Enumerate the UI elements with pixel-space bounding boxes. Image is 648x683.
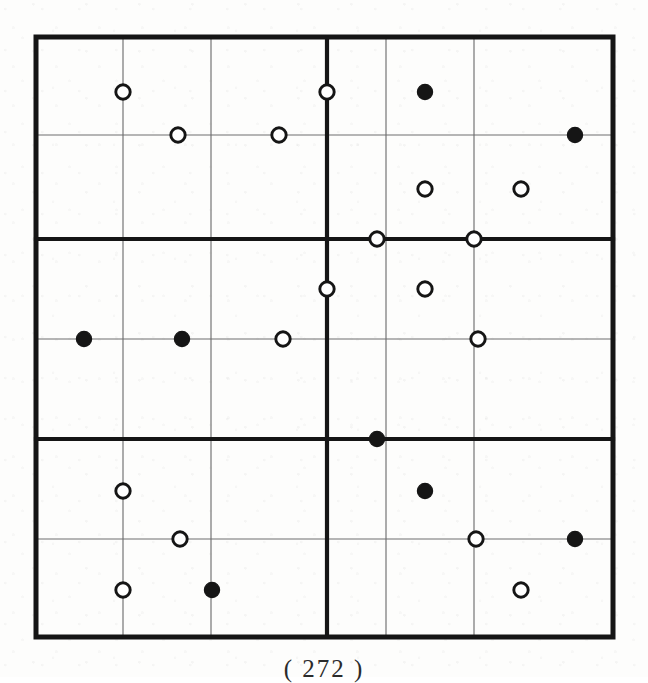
open-circle-marker[interactable] (320, 282, 334, 296)
filled-circle-marker[interactable] (567, 531, 582, 546)
filled-circle-marker[interactable] (76, 331, 91, 346)
filled-circle-marker[interactable] (417, 483, 432, 498)
figure-caption: ( 272 ) (0, 655, 648, 683)
filled-circle-marker[interactable] (204, 582, 219, 597)
open-circle-marker[interactable] (276, 332, 290, 346)
open-circle-marker[interactable] (272, 128, 286, 142)
marker-group (76, 84, 582, 597)
filled-circle-marker[interactable] (417, 84, 432, 99)
open-circle-marker[interactable] (370, 232, 384, 246)
filled-circle-marker[interactable] (567, 127, 582, 142)
thin-gridline-group (36, 37, 613, 637)
open-circle-marker[interactable] (320, 85, 334, 99)
filled-circle-marker[interactable] (174, 331, 189, 346)
filled-circle-marker[interactable] (369, 431, 384, 446)
open-circle-marker[interactable] (514, 583, 528, 597)
open-circle-marker[interactable] (116, 583, 130, 597)
open-circle-marker[interactable] (116, 484, 130, 498)
open-circle-marker[interactable] (469, 532, 483, 546)
open-circle-marker[interactable] (471, 332, 485, 346)
open-circle-marker[interactable] (173, 532, 187, 546)
open-circle-marker[interactable] (467, 232, 481, 246)
lattice-figure-container (0, 0, 648, 648)
open-circle-marker[interactable] (418, 182, 432, 196)
open-circle-marker[interactable] (116, 85, 130, 99)
lattice-figure-svg (0, 0, 648, 648)
open-circle-marker[interactable] (514, 182, 528, 196)
open-circle-marker[interactable] (171, 128, 185, 142)
open-circle-marker[interactable] (418, 282, 432, 296)
